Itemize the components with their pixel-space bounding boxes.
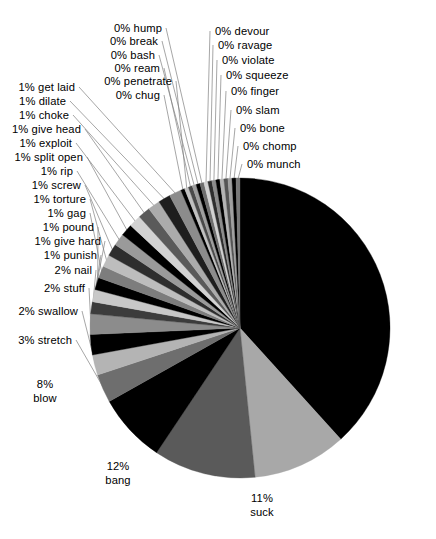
slice-callout-label: 3% stretch (18, 334, 72, 346)
slice-callout-label: 1% rip (41, 165, 73, 177)
slice-name: blow (33, 391, 56, 405)
leader-line (234, 146, 238, 179)
pie-slice-group (90, 178, 390, 478)
leader-line (238, 164, 242, 179)
slice-callout-label: 1% give head (12, 123, 81, 135)
slice-callout-label: 1% torture (33, 193, 86, 205)
slice-callout-label: 2% nail (55, 264, 92, 276)
slice-value-label: 12%bang (105, 460, 130, 487)
slice-value-label: 11%suck (250, 492, 273, 519)
slice-name: fuck (352, 284, 375, 298)
slice-callout-label: 0% squeeze (226, 69, 289, 81)
slice-percent: 12% (105, 460, 130, 474)
leader-line (79, 87, 176, 194)
slice-callout-label: 0% violate (222, 54, 275, 66)
leader-line (230, 128, 235, 179)
slice-callout-label: 0% munch (247, 158, 301, 170)
pie-chart-figure: 43%fuck11%suck12%bang8%blow 3% stretch2%… (0, 0, 436, 539)
leader-line (214, 60, 217, 181)
slice-callout-label: 0% chug (116, 89, 160, 101)
leader-line (176, 81, 187, 189)
slice-callout-label: 1% gag (47, 207, 86, 219)
slice-callout-label: 1% screw (32, 179, 81, 191)
slice-name: bang (105, 473, 130, 487)
slice-callout-label: 0% bone (240, 122, 285, 134)
slice-callout-label: 2% stuff (44, 282, 85, 294)
slice-callout-label: 0% chomp (243, 140, 297, 152)
slice-callout-label: 0% hump (114, 22, 162, 34)
leader-line (226, 110, 231, 180)
slice-callout-label: 1% pound (43, 221, 94, 233)
slice-callout-label: 0% penetrate (104, 75, 172, 87)
leader-line (210, 45, 213, 182)
slice-value-label: 43%fuck (352, 271, 375, 298)
leader-line (70, 101, 165, 199)
slice-percent: 8% (33, 378, 56, 392)
slice-callout-label: 1% choke (19, 109, 69, 121)
slice-callout-label: 1% punish (44, 249, 97, 261)
slice-callout-label: 1% give hard (34, 235, 101, 247)
leader-line (218, 75, 221, 181)
slice-callout-label: 2% swallow (19, 305, 78, 317)
leader-line (222, 91, 226, 180)
leader-line (206, 31, 210, 183)
slice-percent: 43% (352, 271, 375, 285)
slice-callout-label: 1% get laid (19, 81, 75, 93)
slice-callout-label: 0% break (110, 35, 158, 47)
slice-callout-label: 0% devour (215, 25, 269, 37)
leader-line (85, 129, 145, 214)
slice-callout-label: 0% slam (236, 104, 280, 116)
slice-callout-label: 0% ream (115, 62, 160, 74)
slice-callout-label: 0% ravage (218, 39, 272, 51)
slice-name: suck (250, 505, 273, 519)
slice-percent: 11% (250, 492, 273, 506)
slice-value-label: 8%blow (33, 378, 56, 405)
slice-callout-label: 1% split open (15, 151, 83, 163)
slice-callout-label: 0% finger (231, 85, 279, 97)
slice-callout-label: 1% exploit (19, 137, 72, 149)
slice-callout-label: 0% bash (111, 49, 155, 61)
slice-callout-label: 1% dilate (19, 95, 66, 107)
